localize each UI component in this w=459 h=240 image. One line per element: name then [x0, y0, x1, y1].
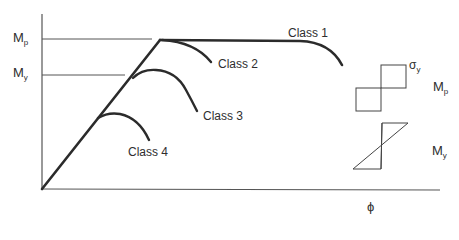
class-2-curve — [162, 40, 211, 62]
class-3-curve — [133, 70, 197, 111]
class-1-label: Class 1 — [288, 26, 328, 40]
x-axis — [42, 189, 440, 190]
plastic-stress-block — [356, 65, 406, 111]
elastic-stress-block — [353, 123, 408, 169]
sigma-sub: y — [416, 65, 420, 74]
my-main: M — [13, 65, 24, 80]
sigma-y-label: σy — [409, 58, 420, 74]
mp-block-main: M — [433, 79, 444, 94]
class-3-label: Class 3 — [203, 109, 243, 123]
class-4-label: Class 4 — [128, 145, 168, 159]
my-block-label: My — [432, 144, 447, 160]
mp-axis-label: Mp — [13, 31, 28, 47]
mp-block-label: Mp — [433, 80, 448, 96]
phi-axis-label: ϕ — [367, 200, 374, 214]
mp-block-sub: p — [444, 87, 448, 96]
mp-sub: p — [24, 38, 28, 47]
my-block-sub: y — [443, 151, 447, 160]
class-2-label: Class 2 — [218, 57, 258, 71]
my-axis-label: My — [13, 66, 28, 82]
my-block-main: M — [432, 143, 443, 158]
my-sub: y — [24, 73, 28, 82]
elastic-branch — [42, 40, 160, 189]
mp-main: M — [13, 30, 24, 45]
class-4-curve — [98, 114, 149, 141]
